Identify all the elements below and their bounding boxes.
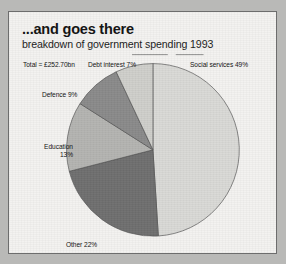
- chart-figure-panel: ...and goes there breakdown of governmen…: [8, 11, 277, 254]
- slice-label-education-line2: 13%: [28, 151, 73, 159]
- slice-label-debt-interest: Debt interest 7%: [88, 61, 136, 69]
- pie-chart: [9, 12, 276, 253]
- slice-label-social-services: Social services 49%: [190, 61, 248, 69]
- slice-label-education-line1: Education: [28, 143, 73, 151]
- pie-slice-social-services[interactable]: [153, 64, 239, 236]
- total-spending-label: Total = £252.70bn: [23, 61, 75, 69]
- slice-label-education: Education 13%: [28, 143, 73, 159]
- slice-label-other: Other 22%: [66, 241, 97, 249]
- slice-label-defence: Defence 9%: [42, 91, 77, 99]
